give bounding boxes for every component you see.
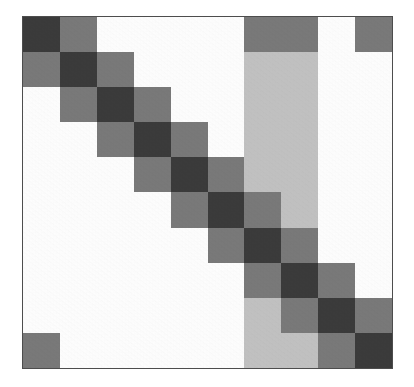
heatmap-cell — [134, 87, 171, 122]
heatmap-cell — [244, 122, 281, 157]
heatmap-cell — [208, 298, 245, 333]
heatmap-cell — [281, 263, 318, 298]
heatmap-cell — [171, 263, 208, 298]
heatmap-cell — [355, 122, 392, 157]
heatmap-cell — [23, 298, 60, 333]
heatmap-cell — [355, 333, 392, 368]
heatmap-cell — [134, 263, 171, 298]
heatmap-cell — [244, 87, 281, 122]
heatmap-cell — [23, 228, 60, 263]
heatmap-cell — [318, 298, 355, 333]
heatmap-cell — [23, 52, 60, 87]
heatmap-cell — [244, 228, 281, 263]
heatmap-cell — [355, 157, 392, 192]
heatmap-cell — [23, 157, 60, 192]
heatmap-cell — [134, 192, 171, 227]
heatmap-cell — [23, 87, 60, 122]
heatmap-cell — [134, 122, 171, 157]
heatmap-cell — [281, 298, 318, 333]
heatmap-cell — [244, 157, 281, 192]
heatmap-cell — [244, 263, 281, 298]
heatmap-cell — [171, 298, 208, 333]
heatmap-cell — [355, 87, 392, 122]
heatmap-cell — [281, 17, 318, 52]
heatmap-cell — [355, 263, 392, 298]
heatmap-cell — [318, 87, 355, 122]
heatmap-cell — [97, 228, 134, 263]
heatmap-cell — [244, 52, 281, 87]
heatmap-cell — [171, 87, 208, 122]
heatmap-cell — [97, 298, 134, 333]
heatmap-cell — [208, 87, 245, 122]
heatmap-cell — [171, 192, 208, 227]
heatmap-cell — [97, 17, 134, 52]
heatmap-cell — [60, 122, 97, 157]
heatmap-cell — [318, 333, 355, 368]
heatmap-cell — [60, 298, 97, 333]
heatmap-cell — [208, 17, 245, 52]
heatmap-cell — [355, 228, 392, 263]
heatmap-cell — [134, 157, 171, 192]
heatmap-cell — [171, 228, 208, 263]
heatmap-cell — [281, 87, 318, 122]
heatmap-cell — [60, 228, 97, 263]
heatmap-cell — [23, 122, 60, 157]
heatmap-cell — [60, 52, 97, 87]
heatmap-cell — [23, 263, 60, 298]
heatmap-cell — [281, 122, 318, 157]
heatmap-cell — [171, 52, 208, 87]
heatmap-cell — [208, 228, 245, 263]
heatmap-cell — [60, 263, 97, 298]
heatmap-cell — [97, 157, 134, 192]
heatmap-cell — [23, 333, 60, 368]
heatmap-cell — [318, 52, 355, 87]
heatmap-cell — [244, 192, 281, 227]
heatmap-cell — [134, 333, 171, 368]
heatmap-cell — [171, 157, 208, 192]
heatmap-cell — [318, 122, 355, 157]
heatmap-cell — [318, 263, 355, 298]
heatmap-cell — [208, 52, 245, 87]
heatmap-cell — [60, 333, 97, 368]
heatmap-cell — [244, 17, 281, 52]
heatmap-cell — [208, 333, 245, 368]
heatmap-cell — [355, 52, 392, 87]
heatmap-cell — [97, 263, 134, 298]
heatmap-cell — [281, 333, 318, 368]
heatmap-cell — [171, 122, 208, 157]
heatmap-cell — [208, 263, 245, 298]
heatmap-cell — [97, 87, 134, 122]
heatmap-cell — [318, 157, 355, 192]
heatmap-cell — [23, 192, 60, 227]
heatmap-cell — [244, 333, 281, 368]
heatmap-cell — [318, 192, 355, 227]
heatmap-cell — [355, 192, 392, 227]
heatmap-cell — [208, 157, 245, 192]
heatmap-cell — [97, 192, 134, 227]
heatmap-cell — [281, 52, 318, 87]
heatmap-plot-frame — [22, 16, 393, 369]
heatmap-cell — [281, 157, 318, 192]
heatmap-cell — [281, 192, 318, 227]
heatmap-cell — [60, 87, 97, 122]
heatmap-cell — [97, 52, 134, 87]
heatmap-cell — [281, 228, 318, 263]
heatmap-cell — [208, 192, 245, 227]
heatmap-cell — [60, 17, 97, 52]
heatmap-cell — [244, 298, 281, 333]
heatmap-cell — [318, 17, 355, 52]
heatmap-cell — [97, 333, 134, 368]
heatmap-cell — [134, 17, 171, 52]
heatmap-cell — [134, 52, 171, 87]
heatmap-cell — [355, 298, 392, 333]
heatmap-cell — [208, 122, 245, 157]
heatmap-cell — [134, 298, 171, 333]
heatmap-cell — [134, 228, 171, 263]
heatmap-cell — [60, 157, 97, 192]
heatmap-cell — [318, 228, 355, 263]
heatmap-cell — [171, 333, 208, 368]
heatmap-cell — [23, 17, 60, 52]
heatmap-cell — [171, 17, 208, 52]
figure-canvas — [0, 0, 414, 387]
heatmap-cell — [60, 192, 97, 227]
